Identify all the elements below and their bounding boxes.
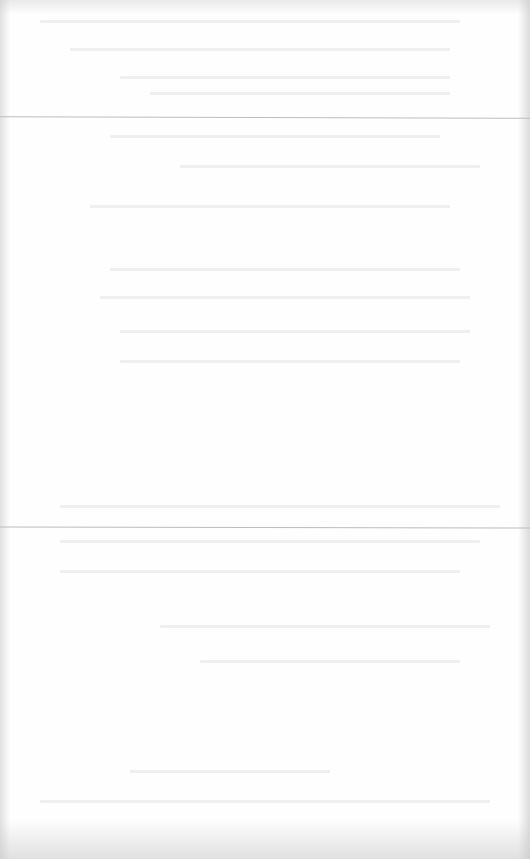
faded-text-line [130, 770, 330, 773]
faded-text-line [120, 360, 460, 363]
faded-text-line [200, 660, 460, 663]
faded-text-line [150, 92, 450, 95]
faded-text-line [60, 540, 480, 543]
faded-text-line [180, 165, 480, 168]
faded-text-line [60, 505, 500, 508]
page-edge-left [0, 0, 10, 859]
page-edge-top [0, 0, 530, 14]
faded-text-line [120, 330, 470, 333]
page-edge-right [518, 0, 530, 859]
faded-text-line [40, 20, 460, 23]
faded-text-line [160, 625, 490, 628]
faded-text-line [110, 135, 440, 138]
faded-text-line [90, 205, 450, 208]
faded-text-line [110, 268, 460, 271]
faded-text-line [40, 800, 490, 803]
page-edge-bottom [0, 819, 530, 859]
section-divider-bottom [0, 526, 530, 528]
scanned-page [0, 0, 530, 859]
faded-text-line [100, 296, 470, 299]
faded-text-line [70, 48, 450, 51]
faded-text-line [60, 570, 460, 573]
section-divider-top [0, 116, 530, 118]
faded-text-line [120, 76, 450, 79]
